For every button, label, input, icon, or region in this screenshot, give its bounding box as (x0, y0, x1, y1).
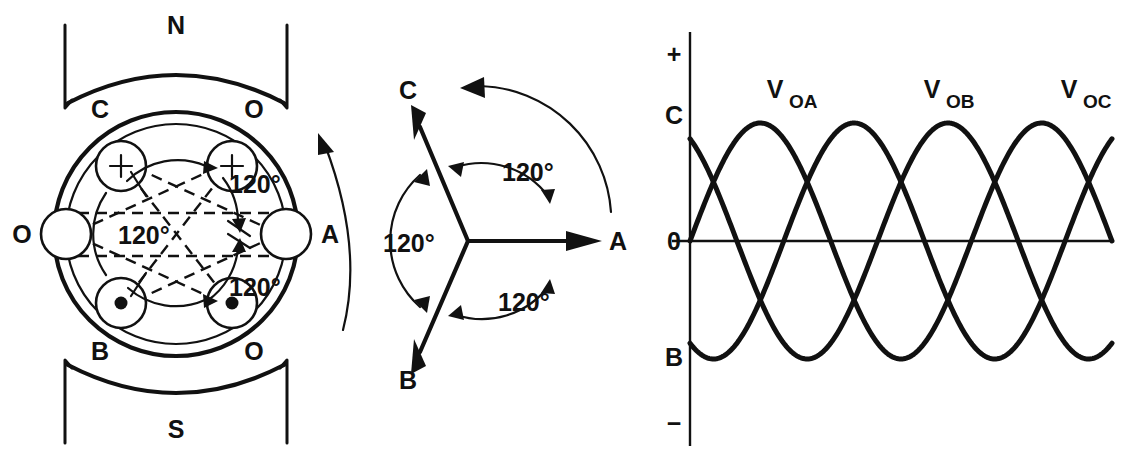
coil-slot-left (41, 209, 91, 259)
phase-voltage-waveform-panel: + C 0 B − V OA V OB V OC (660, 0, 1137, 467)
axis-label-c: C (665, 101, 683, 129)
terminal-label-o-left: O (12, 220, 31, 248)
terminal-label-c: C (91, 95, 109, 123)
terminal-label-o-bottom: O (244, 337, 263, 365)
waveform-label-voa-sub: OA (789, 91, 818, 112)
axis-label-zero: 0 (667, 227, 681, 255)
terminal-label-a: A (321, 220, 339, 248)
generator-angle-label-top: 120° (229, 170, 281, 198)
phasor-diagram-panel: A C B 120° 120° 120° (380, 0, 660, 467)
south-pole-label: S (168, 415, 185, 443)
waveform-label-voa: V OA (767, 75, 818, 112)
generator-angle-label-bottom: 120° (229, 273, 281, 301)
phasor-angle-label-bc: 120° (383, 229, 435, 257)
waveform-label-voa-v: V (767, 75, 784, 103)
terminal-label-o-top: O (244, 95, 263, 123)
axis-label-positive: + (667, 40, 682, 68)
phasor-angle-label-ab: 120° (498, 288, 550, 316)
phasor-label-b: B (399, 366, 417, 394)
waveform-label-vob-sub: OB (946, 91, 975, 112)
north-pole-label: N (167, 11, 185, 39)
terminal-label-b: B (91, 337, 109, 365)
generator-angle-label-left: 120° (118, 221, 170, 249)
coil-slot-right (261, 209, 311, 259)
phasor-vector-a (468, 231, 602, 251)
phasor-label-c: C (399, 76, 417, 104)
axis-label-b: B (665, 343, 683, 371)
waveform-label-vob: V OB (924, 75, 975, 112)
generator-cross-section-panel: N S (0, 0, 380, 467)
waveform-label-voc-v: V (1061, 75, 1078, 103)
rotation-arrow (460, 77, 611, 212)
waveform-label-voc-sub: OC (1083, 91, 1112, 112)
waveform-label-voc: V OC (1061, 75, 1112, 112)
waveform-label-vob-v: V (924, 75, 941, 103)
phasor-angle-label-ca: 120° (502, 158, 554, 186)
three-phase-generator-figure: N S (0, 0, 1137, 467)
phasor-label-a: A (609, 227, 627, 255)
axis-label-negative: − (667, 409, 682, 437)
